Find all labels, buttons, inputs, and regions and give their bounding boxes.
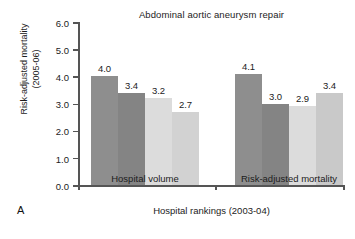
bar-value-label: 4.0 (98, 63, 111, 74)
y-tick-label: 0.0 (56, 180, 69, 191)
bar-value-label: 3.2 (152, 85, 165, 96)
bar-value-label: 3.0 (269, 91, 282, 102)
bars-layer: 4.03.43.22.74.13.02.93.4 (80, 22, 345, 185)
x-group-label: Risk-adjusted mortality (241, 173, 337, 184)
x-group-label: Hospital volume (111, 173, 179, 184)
y-tick-label: 1.0 (56, 153, 69, 164)
panel-label: A (17, 204, 24, 216)
x-axis-label: Hospital rankings (2003-04) (78, 205, 345, 216)
bar: 3.4 (118, 93, 145, 185)
bar-value-label: 2.7 (179, 99, 192, 110)
bar: 3.4 (316, 93, 343, 185)
bar: 3.2 (145, 98, 172, 185)
x-tick (215, 185, 217, 190)
plot-area: 0.01.02.03.04.05.06.0 4.03.43.22.74.13.0… (78, 22, 345, 185)
y-tick: 2.0 (73, 131, 78, 133)
bar-value-label: 4.1 (242, 61, 255, 72)
y-tick: 4.0 (73, 76, 78, 78)
y-tick-label: 2.0 (56, 126, 69, 137)
chart-title: Abdominal aortic aneurysm repair (78, 9, 345, 20)
y-axis-label-line2: (2005-06) (31, 0, 43, 139)
y-tick: 5.0 (73, 49, 78, 51)
bar-value-label: 2.9 (296, 93, 309, 104)
bar: 4.1 (235, 74, 262, 185)
y-axis-label: Risk-adjusted mortality (2005-06) (19, 0, 47, 139)
y-tick-label: 4.0 (56, 72, 69, 83)
x-tick (343, 185, 345, 190)
x-tick (78, 185, 80, 190)
bar-value-label: 3.4 (125, 80, 138, 91)
y-tick: 1.0 (73, 158, 78, 160)
y-tick: 6.0 (73, 22, 78, 24)
bar: 4.0 (91, 76, 118, 185)
y-axis-label-line1: Risk-adjusted mortality (19, 0, 31, 139)
x-axis-spine (78, 185, 345, 187)
y-tick-label: 5.0 (56, 44, 69, 55)
y-tick: 3.0 (73, 104, 78, 106)
y-tick-label: 3.0 (56, 99, 69, 110)
y-tick-label: 6.0 (56, 17, 69, 28)
figure-panel-a: Abdominal aortic aneurysm repair Risk-ad… (0, 0, 355, 239)
bar-value-label: 3.4 (323, 80, 336, 91)
